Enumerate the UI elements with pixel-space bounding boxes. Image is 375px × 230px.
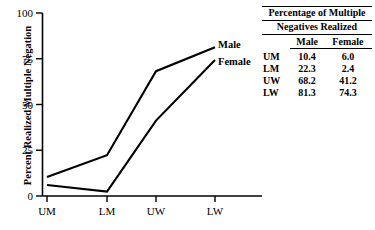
- table-corner-cell: [262, 36, 290, 48]
- table-col-header-male: Male: [290, 36, 324, 48]
- x-tick-label-lw: LW: [207, 205, 224, 217]
- table-cell-uw-female: 41.2: [324, 75, 372, 87]
- table-row-label-lw: LW: [262, 86, 290, 98]
- table-cell-lm-female: 2.4: [324, 63, 372, 75]
- table-row-label-lm: LM: [262, 63, 290, 75]
- table-cell-uw-male: 68.2: [290, 75, 324, 87]
- table-caption-line-2: Negatives Realized: [262, 21, 372, 34]
- table-grid: Male Female UM 10.4 6.0 LM 22.3 2.4 UW 6…: [262, 36, 372, 98]
- x-tick-label-um: UM: [38, 205, 56, 217]
- table-cell-um-female: 6.0: [324, 48, 372, 62]
- table-col-header-female: Female: [324, 36, 372, 48]
- table-row: LM 22.3 2.4: [262, 63, 372, 75]
- table-row: UM 10.4 6.0: [262, 48, 372, 62]
- table-cell-lm-male: 22.3: [290, 63, 324, 75]
- series-label-female: Female: [218, 57, 251, 68]
- table-row: UW 68.2 41.2: [262, 75, 372, 87]
- series-line-female: [47, 60, 215, 192]
- y-axis-title: Percent Realized Multiple Negation: [22, 16, 33, 196]
- table-cell-um-male: 10.4: [290, 48, 324, 62]
- series-label-male: Male: [218, 40, 241, 51]
- table-cell-lw-female: 74.3: [324, 86, 372, 98]
- table-row-label-uw: UW: [262, 75, 290, 87]
- table-cell-lw-male: 81.3: [290, 86, 324, 98]
- figure-container: 100 75 50 25 0 UM LM UW LW Percent Reali…: [0, 0, 375, 230]
- data-table: Percentage of Multiple Negatives Realize…: [262, 6, 372, 98]
- table-rule-under-caption: [262, 34, 372, 35]
- table-row-label-um: UM: [262, 48, 290, 62]
- table-header-row: Male Female: [262, 36, 372, 48]
- x-tick-label-uw: UW: [147, 205, 166, 217]
- table-caption-line-1: Percentage of Multiple: [262, 7, 372, 20]
- x-tick-label-lm: LM: [99, 205, 116, 217]
- table-row: LW 81.3 74.3: [262, 86, 372, 98]
